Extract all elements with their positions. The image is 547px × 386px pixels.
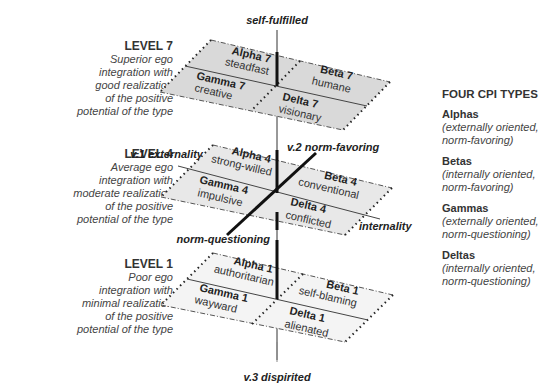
legend-item-betas: Betas (internally oriented,norm-favoring… xyxy=(442,155,547,194)
level-7-plane: Alpha 7 steadfast Beta 7 humane Gamma 7 … xyxy=(160,40,390,130)
legend-desc-line: (externally oriented, xyxy=(442,121,539,133)
legend-desc-line: norm-questioning) xyxy=(442,228,531,240)
legend-item-name: Betas xyxy=(442,155,547,168)
legend-item-name: Alphas xyxy=(442,108,547,121)
legend-desc-line: (internally oriented, xyxy=(442,168,536,180)
legend-item-alphas: Alphas (externally oriented,norm-favorin… xyxy=(442,108,547,147)
axis-label-externality: v.1 externality xyxy=(130,148,204,160)
legend-item-desc: (externally oriented,norm-favoring) xyxy=(442,121,547,147)
legend-item-desc: (internally oriented,norm-favoring) xyxy=(442,168,547,194)
legend-heading: FOUR CPI TYPES xyxy=(442,88,547,100)
legend-item-gammas: Gammas (externally oriented,norm-questio… xyxy=(442,202,547,241)
legend-item-name: Gammas xyxy=(442,202,547,215)
axis-label-norm-favoring: v.2 norm-favoring xyxy=(287,141,380,153)
legend-desc-line: norm-questioning) xyxy=(442,275,531,287)
cpi-types-legend: FOUR CPI TYPES Alphas (externally orient… xyxy=(442,88,547,296)
legend-item-name: Deltas xyxy=(442,249,547,262)
legend-item-deltas: Deltas (internally oriented,norm-questio… xyxy=(442,249,547,288)
level-1-plane: Alpha 1 authoritarian Beta 1 self-blamin… xyxy=(161,240,393,362)
legend-desc-line: norm-favoring) xyxy=(442,181,514,193)
legend-desc-line: (externally oriented, xyxy=(442,215,539,227)
legend-item-desc: (externally oriented,norm-questioning) xyxy=(442,215,547,241)
axis-label-self-fulfilled: self-fulfilled xyxy=(246,14,308,26)
axis-label-internality: internality xyxy=(359,220,412,232)
legend-desc-line: norm-favoring) xyxy=(442,134,514,146)
legend-item-desc: (internally oriented,norm-questioning) xyxy=(442,262,547,288)
axis-label-dispirited: v.3 dispirited xyxy=(243,371,311,383)
legend-desc-line: (internally oriented, xyxy=(442,262,536,274)
axis-label-norm-questioning: norm-questioning xyxy=(177,233,271,245)
